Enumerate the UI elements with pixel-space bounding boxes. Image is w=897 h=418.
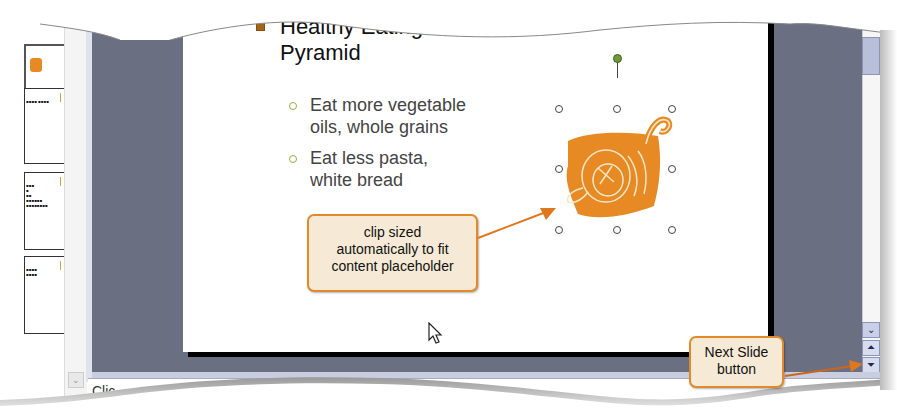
thumbnail-text: ▪▪▪▪ ▪▪▪▪ bbox=[26, 267, 37, 277]
callout-text-line: content placeholder bbox=[309, 258, 476, 275]
previous-slide-button[interactable]: ⏶ bbox=[862, 340, 880, 356]
callout-next-slide-button: Next Slide button bbox=[689, 336, 784, 388]
resize-handle-se[interactable] bbox=[668, 226, 676, 234]
callout-clip-sized: clip sized automatically to fit content … bbox=[307, 214, 478, 292]
cornucopia-clip-art[interactable] bbox=[558, 106, 676, 230]
callout-text-line: button bbox=[691, 361, 782, 378]
title-mark-icon bbox=[58, 93, 61, 102]
resize-handle-e[interactable] bbox=[668, 165, 676, 173]
thumbnail-line: ▪▪▪▪▪▪▪▪ bbox=[26, 203, 48, 208]
scroll-down-button[interactable]: ⌄ bbox=[862, 322, 880, 338]
slide-shadow bbox=[768, 22, 774, 362]
slide-thumbnail-3[interactable]: ▪▪▪ ▪ ▪▪ ▪▪▪▪▪▪ ▪▪▪▪▪▪▪▪ bbox=[24, 172, 66, 250]
callout-arrow-icon bbox=[476, 204, 560, 244]
title-mark-icon bbox=[58, 261, 61, 270]
thumbnail-pane-scrollbar[interactable]: ⌄ bbox=[64, 22, 87, 402]
thumbnail-line: ▪▪▪▪ bbox=[26, 272, 37, 277]
bullet-text-line: Eat less pasta, bbox=[310, 147, 428, 169]
callout-text-line: clip sized bbox=[309, 224, 476, 241]
bullet-text-line: white bread bbox=[310, 169, 428, 191]
bullet-text-line: oils, whole grains bbox=[310, 116, 466, 138]
slide-title-line2: Pyramid bbox=[280, 40, 423, 66]
bullet-circle-icon bbox=[289, 102, 297, 110]
callout-text-line: Next Slide bbox=[691, 344, 782, 361]
resize-handle-n[interactable] bbox=[613, 105, 621, 113]
page-shadow-right bbox=[880, 30, 897, 390]
thumbnail-text: ▪▪▪▪ ▪▪▪▪ bbox=[26, 99, 49, 104]
bullet-item-1[interactable]: Eat more vegetable oils, whole grains bbox=[310, 94, 466, 138]
slide-thumbnail-2[interactable]: ▪▪▪▪ ▪▪▪▪ bbox=[24, 88, 66, 164]
callout-arrow-icon bbox=[783, 360, 863, 380]
bullet-item-2[interactable]: Eat less pasta, white bread bbox=[310, 147, 428, 191]
cornucopia-thumbnail-icon bbox=[30, 58, 42, 72]
chevron-down-icon: ⌄ bbox=[867, 324, 875, 335]
thumbnail-text: ▪▪▪ ▪ ▪▪ ▪▪▪▪▪▪ ▪▪▪▪▪▪▪▪ bbox=[26, 183, 48, 208]
scrollbar-thumb[interactable] bbox=[862, 37, 880, 75]
callout-text-line: automatically to fit bbox=[309, 241, 476, 258]
resize-handle-ne[interactable] bbox=[668, 105, 676, 113]
bullet-circle-icon bbox=[289, 155, 297, 163]
cornucopia-icon bbox=[558, 106, 676, 230]
double-down-arrow-icon: ⏷ bbox=[867, 359, 875, 370]
resize-handle-nw[interactable] bbox=[555, 105, 563, 113]
powerpoint-window: ▪▪▪▪ ▪▪▪▪ ▪▪▪ ▪ ▪▪ ▪▪▪▪▪▪ ▪▪▪▪▪▪▪▪ ▪▪▪▪ … bbox=[0, 0, 897, 418]
torn-edge-top bbox=[0, 0, 897, 40]
title-mark-icon bbox=[58, 177, 61, 186]
slide-canvas[interactable] bbox=[183, 22, 768, 352]
resize-handle-w[interactable] bbox=[555, 165, 563, 173]
rotation-handle[interactable] bbox=[613, 54, 622, 63]
mouse-pointer-icon bbox=[428, 322, 444, 346]
resize-handle-s[interactable] bbox=[613, 226, 621, 234]
slide-thumbnail-4[interactable]: ▪▪▪▪ ▪▪▪▪ bbox=[24, 256, 66, 334]
double-up-arrow-icon: ⏶ bbox=[867, 342, 875, 353]
bullet-text-line: Eat more vegetable bbox=[310, 94, 466, 116]
